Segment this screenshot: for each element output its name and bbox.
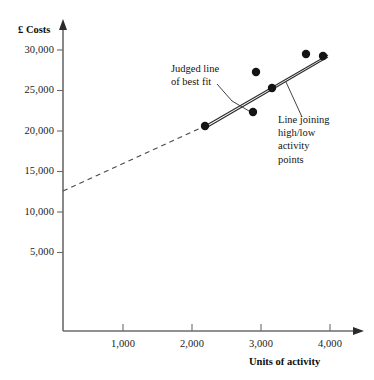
- data-point: [249, 108, 257, 116]
- high-low-line-leader: [286, 82, 302, 117]
- best-fit-line-extrapolation: [63, 126, 205, 191]
- x-axis-title: Units of activity: [249, 356, 320, 367]
- data-point: [302, 50, 310, 58]
- high-low-annotation-line1: Line joining: [278, 113, 330, 126]
- judged-line-annotation: Judged line of best fit: [171, 62, 219, 88]
- y-tick-label-5000: 5,000: [0, 246, 54, 257]
- x-axis-arrowhead: [353, 327, 364, 335]
- data-point: [319, 52, 327, 60]
- y-tick-label-10000: 10,000: [0, 206, 54, 217]
- y-tick-label-30000: 30,000: [0, 44, 54, 55]
- chart-plot-area: [0, 0, 374, 380]
- data-point: [268, 84, 276, 92]
- high-low-annotation-line4: points: [278, 153, 330, 166]
- y-axis-arrowhead: [59, 19, 67, 30]
- y-tick-label-20000: 20,000: [0, 125, 54, 136]
- high-low-annotation-line2: high/low: [278, 126, 330, 139]
- x-tick-label-4000: 4,000: [300, 338, 360, 349]
- judged-line-leader: [217, 84, 249, 111]
- x-tick-label-3000: 3,000: [231, 338, 291, 349]
- y-tick-label-25000: 25,000: [0, 84, 54, 95]
- data-point: [252, 68, 260, 76]
- scatter-chart: £ Costs 30,000 25,000 20,000 15,000 10,0…: [0, 0, 374, 380]
- judged-line-annotation-line2: of best fit: [171, 75, 219, 88]
- high-low-annotation-line3: activity: [278, 139, 330, 152]
- data-point: [201, 122, 209, 130]
- x-tick-label-1000: 1,000: [93, 338, 153, 349]
- y-tick-label-15000: 15,000: [0, 165, 54, 176]
- y-axis-title: £ Costs: [18, 24, 50, 35]
- high-low-line-annotation: Line joining high/low activity points: [278, 113, 330, 166]
- judged-line-annotation-line1: Judged line: [171, 62, 219, 75]
- x-tick-label-2000: 2,000: [162, 338, 222, 349]
